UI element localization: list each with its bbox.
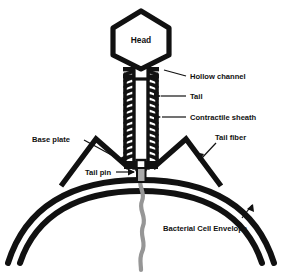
hollow-channel-tube — [134, 68, 148, 168]
label-tail: Tail — [190, 92, 203, 101]
label-base-plate: Base plate — [32, 135, 70, 144]
leader-tail-fiber — [200, 143, 216, 160]
bacteriophage-diagram: Head Hollow channel Tail Contractile she… — [0, 0, 283, 274]
hollow-channel — [134, 68, 148, 168]
label-tail-pin: Tail pin — [85, 168, 111, 177]
label-tail-fiber: Tail fiber — [215, 133, 246, 142]
tail-pin — [137, 168, 146, 182]
dna-wavy-line — [140, 176, 144, 270]
label-hollow-channel: Hollow channel — [190, 72, 246, 81]
label-bacterial-cell-envelope: Bacterial Cell Envelope — [163, 224, 247, 233]
label-head: Head — [131, 35, 151, 45]
dna-strand — [140, 176, 144, 270]
label-contractile-sheath: Contractile sheath — [190, 113, 257, 122]
tail-pin-shaft — [137, 168, 146, 182]
leader-hollow-channel — [164, 70, 186, 76]
diagram-canvas: Head Hollow channel Tail Contractile she… — [0, 0, 283, 274]
